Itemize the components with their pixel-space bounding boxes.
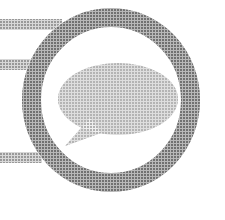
logo-graphic (0, 0, 225, 220)
bar-bottom (0, 152, 42, 163)
logo-canvas: Grey ring with a speech bubble inside an… (0, 0, 225, 220)
bar-top (0, 19, 62, 30)
